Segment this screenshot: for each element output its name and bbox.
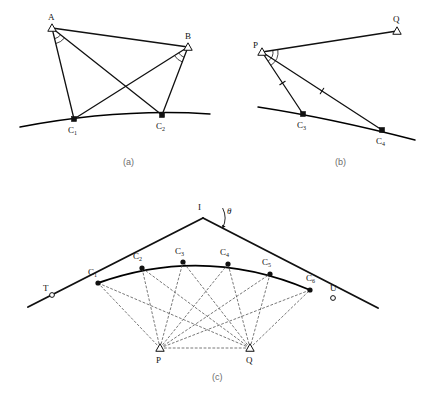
observation-ray-P-C6 — [160, 290, 310, 348]
label-C3: C3 — [297, 120, 306, 131]
label-P: P — [156, 355, 161, 365]
observation-ray-P-C2 — [142, 268, 160, 348]
panel-c: θITUC1C2C3C4C5C6PQ(c) — [28, 202, 378, 382]
panel-a: C1C2AB(a) — [20, 12, 210, 167]
panel-caption-c: (c) — [212, 372, 223, 382]
observation-ray-P-C1 — [98, 283, 160, 348]
theta-arc — [223, 208, 225, 228]
observation-ray-P-C4 — [160, 264, 228, 348]
label-C3-subscript: 3 — [181, 251, 184, 257]
panel-caption-b: (b) — [335, 157, 346, 167]
tick-P-C3 — [280, 81, 285, 85]
label-C2: C2 — [156, 121, 165, 132]
panel-b-curve — [258, 107, 415, 140]
observation-ray-P-C5 — [160, 274, 270, 348]
observation-ray-Q-C4 — [228, 264, 250, 348]
figure-container: C1C2AB(a)C3C4PQ(b)θITUC1C2C3C4C5C6PQ(c) — [0, 0, 430, 401]
label-C6-subscript: 6 — [312, 278, 315, 284]
sight-line-B-C1 — [74, 47, 188, 119]
curve-point-C5 — [267, 271, 272, 276]
geometry-figure: C1C2AB(a)C3C4PQ(b)θITUC1C2C3C4C5C6PQ(c) — [0, 0, 430, 401]
label-C1-subscript: 1 — [94, 272, 97, 278]
curve-point-C1 — [72, 117, 77, 122]
label-P: P — [253, 40, 258, 50]
panel-a-curve — [20, 113, 210, 127]
label-Q: Q — [393, 14, 400, 24]
tick-P-C4 — [320, 88, 323, 93]
label-C4-subscript: 4 — [226, 252, 229, 258]
label-B: B — [185, 31, 191, 41]
tangent-marker-U — [331, 296, 336, 301]
theta-label: θ — [227, 206, 232, 216]
label-C2-subscript: 2 — [162, 126, 165, 132]
curve-point-C2 — [160, 113, 165, 118]
label-C4-subscript: 4 — [382, 141, 385, 147]
panel-b: C3C4PQ(b) — [253, 14, 415, 167]
label-C2: C2 — [133, 251, 142, 262]
sight-line-P-Q — [262, 31, 397, 52]
angle-at-A-arc-1 — [55, 35, 61, 39]
panel-caption-a: (a) — [123, 157, 134, 167]
curve-point-C1 — [95, 280, 100, 285]
label-T: T — [43, 283, 49, 293]
observation-ray-Q-C1 — [98, 283, 250, 348]
curve-point-C2 — [139, 265, 144, 270]
label-C4: C4 — [220, 247, 229, 258]
label-C1: C1 — [68, 125, 77, 136]
label-Q: Q — [246, 355, 253, 365]
label-C2-subscript: 2 — [139, 256, 142, 262]
curve-point-C4 — [380, 128, 385, 133]
sight-line-B-C2 — [162, 47, 188, 115]
label-C1: C1 — [88, 267, 97, 278]
curve-point-C3 — [180, 259, 185, 264]
label-C5: C5 — [262, 257, 271, 268]
observation-ray-Q-C2 — [142, 268, 250, 348]
observation-ray-Q-C6 — [250, 290, 310, 348]
angle-at-B-arc-2 — [174, 56, 182, 62]
label-U: U — [330, 283, 337, 293]
label-A: A — [48, 12, 55, 22]
angle-at-B-arc-1 — [179, 53, 184, 57]
curve-point-C3 — [301, 112, 306, 117]
label-I: I — [198, 202, 201, 212]
station-Q — [393, 27, 401, 34]
station-A — [48, 24, 56, 31]
label-C3-subscript: 3 — [303, 125, 306, 131]
curve-point-C6 — [307, 287, 312, 292]
sight-line-A-C1 — [52, 28, 74, 119]
label-C1-subscript: 1 — [74, 130, 77, 136]
label-C4: C4 — [376, 136, 385, 147]
label-C3: C3 — [175, 246, 184, 257]
label-C5-subscript: 5 — [268, 262, 271, 268]
curve-point-C4 — [225, 261, 230, 266]
angle-at-A-arc-2 — [56, 38, 65, 44]
panel-c-curve — [98, 266, 310, 290]
tangent-marker-T — [50, 293, 55, 298]
